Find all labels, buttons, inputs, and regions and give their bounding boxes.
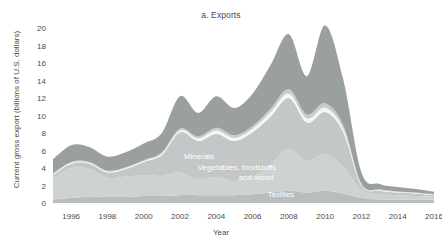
stacked-area-chart: 02468101214161820 1996199820002002200420… (0, 0, 442, 245)
y-tick-label: 4 (42, 164, 47, 173)
figure-panel: a. Exports Current gross export (billion… (0, 0, 442, 245)
y-tick-label: 18 (37, 42, 46, 51)
x-tick-label: 2002 (171, 212, 189, 221)
y-tick-label: 6 (42, 147, 47, 156)
y-tick-label: 12 (37, 94, 46, 103)
x-tick-label: 2012 (353, 212, 371, 221)
series-label: Minerals (184, 152, 214, 161)
x-tick-label: 1998 (99, 212, 117, 221)
x-tick-label: 2010 (316, 212, 334, 221)
x-tick-label: 2000 (135, 212, 153, 221)
x-tick-label: 1996 (62, 212, 80, 221)
series-label: and wood (239, 173, 274, 182)
x-tick-label: 2008 (280, 212, 298, 221)
x-tick-label: 2004 (207, 212, 225, 221)
y-tick-label: 16 (37, 59, 46, 68)
x-tick-label: 2014 (389, 212, 407, 221)
y-tick-label: 14 (37, 77, 46, 86)
y-tick-label: 2 (42, 182, 47, 191)
series-label: Vegetables, foodstuffs (198, 163, 277, 172)
y-tick-label: 0 (42, 199, 47, 208)
x-tick-label: 2016 (425, 212, 442, 221)
series-label: Textiles (268, 190, 295, 199)
y-tick-label: 10 (37, 112, 46, 121)
x-axis-ticks: 1996199820002002200420062008201020122014… (62, 212, 442, 221)
x-tick-label: 2006 (244, 212, 262, 221)
y-axis-ticks: 02468101214161820 (37, 24, 46, 208)
y-tick-label: 8 (42, 129, 47, 138)
y-tick-label: 20 (37, 24, 46, 33)
